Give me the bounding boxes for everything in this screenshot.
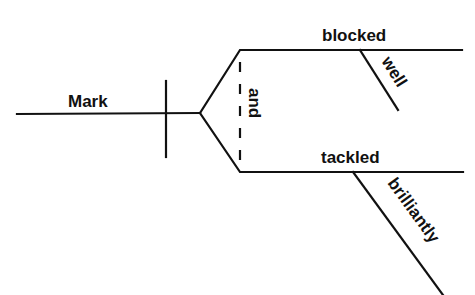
verb-word-1: blocked	[322, 26, 386, 45]
subject-word: Mark	[68, 92, 108, 111]
modifier-word-2: brilliantly	[384, 174, 444, 247]
subject-baseline	[17, 113, 200, 114]
fork-upper	[200, 50, 462, 113]
verb-word-2: tackled	[321, 148, 380, 167]
conjunction-word: and	[245, 88, 264, 118]
sentence-diagram: Mark blocked tackled and well brilliantl…	[0, 0, 475, 295]
